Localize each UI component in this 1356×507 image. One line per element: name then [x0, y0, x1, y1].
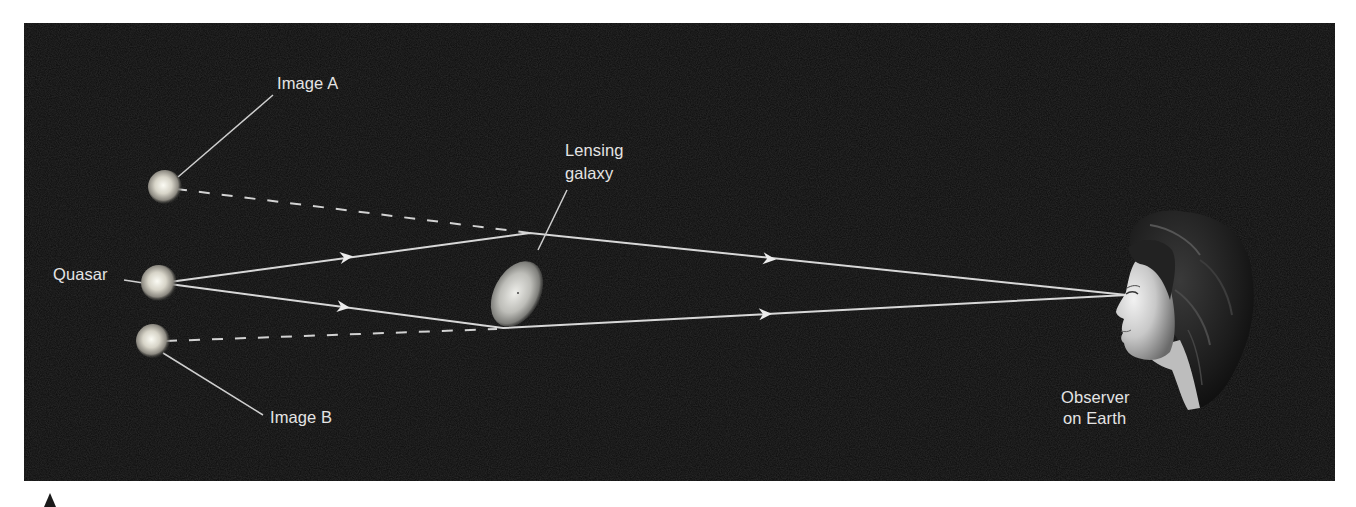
leader-line-galaxy [538, 190, 567, 250]
light-ray-lower [162, 283, 1127, 328]
dashed-line-image-a [176, 189, 530, 233]
label-observer-line2: on Earth [1063, 408, 1126, 429]
observer-head-illustration [1116, 211, 1254, 410]
label-image-b: Image B [270, 407, 332, 428]
dashed-line-image-b [166, 329, 497, 341]
leader-line-image-a [178, 95, 273, 177]
label-quasar: Quasar [53, 264, 108, 285]
leader-line-image-b [163, 353, 263, 415]
lensing-galaxy-ellipse [480, 252, 553, 335]
figure-marker-triangle-icon [44, 493, 56, 507]
image-b-sphere [136, 324, 170, 358]
label-lensing-line1: Lensing [565, 140, 624, 161]
arrow-icon [339, 250, 353, 264]
image-a-sphere [148, 170, 182, 204]
label-image-a: Image A [277, 73, 338, 94]
label-observer-line1: Observer [1061, 387, 1130, 408]
label-lensing-line2: galaxy [565, 163, 613, 184]
quasar-sphere [141, 265, 177, 301]
galaxy-core [517, 292, 519, 294]
arrow-icon [762, 252, 776, 265]
light-ray-upper [162, 233, 1127, 295]
